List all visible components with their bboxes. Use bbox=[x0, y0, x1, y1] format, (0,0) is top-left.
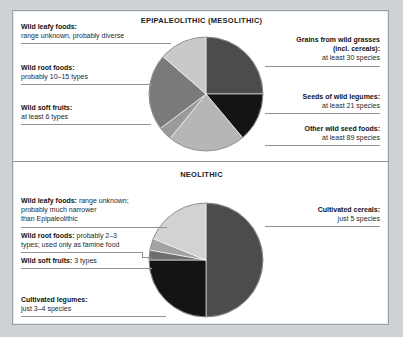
label-wild-root-foods-bottom: Wild root foods: probably 2–3 types; use… bbox=[21, 231, 181, 249]
leader-line-wild-root-top bbox=[21, 84, 152, 85]
leader-line-wild-root-bottom bbox=[21, 252, 142, 253]
label-heading-line2: (incl. cereals): bbox=[333, 45, 380, 52]
label-detail: range unknown, probably diverse bbox=[21, 32, 124, 39]
leader-line-wild-soft-fruits-bottom bbox=[21, 268, 152, 269]
label-detail: at least 30 species bbox=[322, 54, 380, 61]
label-heading: Seeds of wild legumes: bbox=[303, 93, 380, 100]
label-seeds-of-wild-legumes: Seeds of wild legumes: at least 21 speci… bbox=[240, 92, 380, 110]
leader-line-wild-soft-fruits-top bbox=[21, 124, 151, 125]
label-heading: Grains from wild grasses bbox=[296, 36, 380, 43]
leader-line-other-wild-seed-foods bbox=[265, 145, 380, 146]
label-heading: Cultivated cereals: bbox=[318, 206, 380, 213]
bottom-chart-title: NEOLITHIC bbox=[0, 170, 403, 179]
leader-line-cultivated-cereals bbox=[265, 226, 380, 227]
label-heading: Wild soft fruits: bbox=[21, 104, 72, 111]
leader-line-seeds-wild-legumes bbox=[265, 113, 380, 114]
label-detail: probably 10–15 types bbox=[21, 73, 88, 80]
section-divider bbox=[13, 161, 388, 162]
label-heading: Wild leafy foods: bbox=[21, 23, 77, 30]
label-detail: at least 6 types bbox=[21, 113, 68, 120]
label-detail-line2: types; used only as famine food bbox=[21, 241, 119, 248]
label-detail-line3: than Epipaleolithic bbox=[21, 215, 78, 222]
label-heading: Other wild seed foods: bbox=[305, 125, 380, 132]
leader-line-cultivated-legumes bbox=[21, 316, 166, 317]
label-detail: just 5 species bbox=[338, 215, 380, 222]
label-wild-root-foods-top: Wild root foods: probably 10–15 types bbox=[21, 63, 171, 81]
label-heading: Wild root foods: bbox=[21, 64, 75, 71]
label-detail: just 3–4 species bbox=[21, 305, 71, 312]
label-detail-line2: probably much narrower bbox=[21, 206, 96, 213]
leader-line-wild-leafy-top bbox=[21, 43, 171, 44]
label-grains-from-wild-grasses: Grains from wild grasses (incl. cereals)… bbox=[240, 35, 380, 63]
label-wild-soft-fruits-bottom: Wild soft fruits: 3 types bbox=[21, 256, 181, 265]
label-detail: at least 89 species bbox=[322, 134, 380, 141]
label-cultivated-legumes: Cultivated legumes: just 3–4 species bbox=[21, 295, 181, 313]
figure-root: EPIPALEOLITHIC (MESOLITHIC) Wild leafy f… bbox=[0, 0, 403, 337]
label-other-wild-seed-foods: Other wild seed foods: at least 89 speci… bbox=[240, 124, 380, 142]
label-detail: at least 21 species bbox=[322, 102, 380, 109]
leader-line-wild-leafy-bottom bbox=[21, 227, 167, 228]
label-detail: 3 types bbox=[72, 257, 97, 264]
label-wild-leafy-foods-bottom: Wild leafy foods: range unknown; probabl… bbox=[21, 196, 181, 224]
label-wild-leafy-foods-top: Wild leafy foods: range unknown, probabl… bbox=[21, 22, 171, 40]
label-heading: Wild root foods: bbox=[21, 232, 75, 239]
leader-line-grains-wild-grasses bbox=[265, 66, 380, 67]
label-heading: Cultivated legumes: bbox=[21, 296, 88, 303]
label-cultivated-cereals: Cultivated cereals: just 5 species bbox=[240, 205, 380, 223]
label-heading: Wild leafy foods: bbox=[21, 197, 77, 204]
label-detail: range unknown; bbox=[77, 197, 129, 204]
label-heading: Wild soft fruits: bbox=[21, 257, 72, 264]
label-detail: probably 2–3 bbox=[75, 232, 117, 239]
label-wild-soft-fruits-top: Wild soft fruits: at least 6 types bbox=[21, 103, 171, 121]
